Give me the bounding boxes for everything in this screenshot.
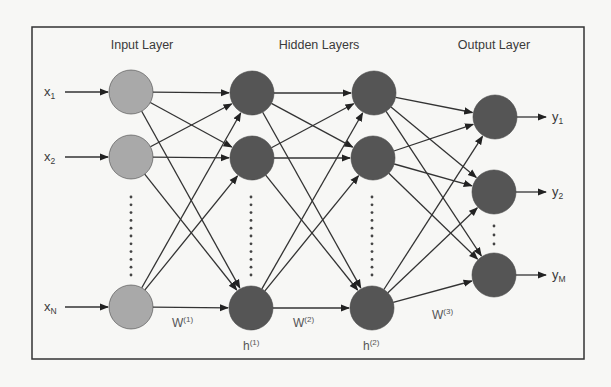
ellipsis-dot	[130, 250, 133, 253]
ellipsis-dot	[371, 219, 374, 222]
ellipsis-dot	[371, 235, 374, 238]
connection-edges	[142, 92, 483, 308]
ellipsis-dot	[250, 242, 253, 245]
connection-edge	[153, 92, 229, 93]
output-label-yM: yM	[552, 267, 566, 284]
connection-edge	[389, 173, 478, 259]
ellipsis-dot	[250, 274, 253, 277]
ellipsis-dot	[250, 258, 253, 261]
ellipsis-dot	[493, 243, 496, 246]
ellipsis-dot	[493, 234, 496, 237]
connection-edge	[396, 97, 473, 112]
input-label-xN: xN	[44, 299, 57, 316]
hidden-node-h1_2	[230, 136, 274, 180]
ellipsis-dot	[130, 235, 133, 238]
input-node-x2	[109, 135, 153, 179]
hidden-node-h1_N	[229, 286, 273, 330]
weight-label: W(1)	[172, 315, 193, 330]
hidden-node-h2_1	[352, 71, 396, 115]
connection-edge	[394, 124, 473, 151]
ellipsis-dot	[493, 225, 496, 228]
ellipsis-dot	[371, 250, 374, 253]
hidden-node-h2_N	[350, 286, 394, 330]
layer-titles: Input LayerHidden LayersOutput Layer	[111, 38, 530, 52]
ellipsis-dots	[130, 196, 496, 277]
hidden-node-h2_2	[351, 136, 395, 180]
ellipsis-dot	[371, 242, 374, 245]
ellipsis-dot	[250, 250, 253, 253]
layer-title-output: Output Layer	[458, 38, 530, 52]
ellipsis-dot	[130, 196, 133, 199]
connection-edge	[153, 307, 228, 308]
connection-edge	[262, 113, 363, 289]
ellipsis-dot	[130, 258, 133, 261]
hidden-node-h1_1	[230, 71, 274, 115]
ellipsis-dot	[130, 219, 133, 222]
hidden-layer-label-h2: h(2)	[363, 338, 380, 353]
neural-network-diagram: Input LayerHidden LayersOutput Layer h(1…	[0, 0, 611, 387]
input-node-x1	[109, 70, 153, 114]
layer-title-hidden: Hidden Layers	[279, 38, 360, 52]
ellipsis-dot	[371, 258, 374, 261]
ellipsis-dot	[250, 227, 253, 230]
output-label-y1: y1	[552, 109, 564, 126]
connection-edge	[384, 136, 483, 289]
output-node-yM	[472, 253, 516, 297]
ellipsis-dot	[130, 274, 133, 277]
ellipsis-dot	[130, 242, 133, 245]
ellipsis-dot	[130, 211, 133, 214]
input-node-xN	[109, 285, 153, 329]
layer-title-input: Input Layer	[111, 38, 174, 52]
connection-edge	[393, 281, 472, 302]
ellipsis-dot	[130, 227, 133, 230]
ellipsis-dot	[371, 211, 374, 214]
output-node-y2	[472, 170, 516, 214]
ellipsis-dot	[250, 266, 253, 269]
ellipsis-dot	[371, 196, 374, 199]
input-label-x1: x1	[44, 84, 56, 101]
output-label-y2: y2	[552, 184, 564, 201]
ellipsis-dot	[250, 196, 253, 199]
connection-edge	[388, 208, 477, 293]
ellipsis-dot	[371, 274, 374, 277]
ellipsis-dot	[130, 266, 133, 269]
output-node-y1	[473, 95, 517, 139]
connection-edge	[153, 157, 229, 158]
ellipsis-dot	[371, 266, 374, 269]
weight-label: W(3)	[432, 307, 453, 322]
ellipsis-dot	[371, 203, 374, 206]
input-label-x2: x2	[44, 149, 56, 166]
weight-label: W(2)	[293, 315, 314, 330]
ellipsis-dot	[250, 211, 253, 214]
ellipsis-dot	[250, 219, 253, 222]
ellipsis-dot	[371, 227, 374, 230]
ellipsis-dot	[250, 203, 253, 206]
ellipsis-dot	[250, 235, 253, 238]
hidden-layer-label-h1: h(1)	[243, 338, 260, 353]
ellipsis-dot	[130, 203, 133, 206]
